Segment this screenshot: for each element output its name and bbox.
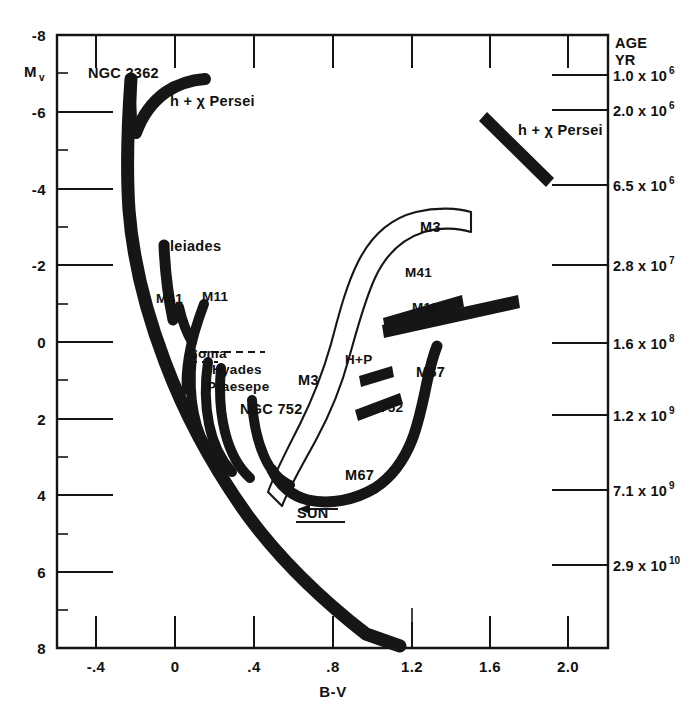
x-axis-tick-labels: -.4 0 .4 .8 1.2 1.6 2.0 xyxy=(87,658,579,675)
x-label-5: 1.6 xyxy=(479,658,501,675)
x-axis-ticks-bottom xyxy=(96,616,568,648)
annotation-m67-ms: M67 xyxy=(345,467,374,483)
annotation-pleiades: Pleiades xyxy=(160,238,221,254)
x-label-1: 0 xyxy=(171,658,180,675)
age-label-2-text: 6.5 x 10 xyxy=(613,178,667,194)
age-label-1-text: 2.0 x 10 xyxy=(613,103,667,119)
y-axis-ticks-right xyxy=(552,75,608,565)
annotation-m11-ms: M11 xyxy=(202,289,229,304)
x-label-4: 1.2 xyxy=(401,658,423,675)
annotation-hyades: Hyades xyxy=(212,362,262,377)
age-label-3-text: 2.8 x 10 xyxy=(613,258,667,274)
age-label-6: 7.1 x 10 9 xyxy=(613,480,675,499)
age-label-2-exponent: 6 xyxy=(669,175,675,186)
y-label--4: -4 xyxy=(32,181,46,198)
age-label-0-text: 1.0 x 10 xyxy=(613,68,667,84)
x-axis-title: B-V xyxy=(319,683,347,700)
y-axis-title-left: M v xyxy=(24,63,45,83)
track-ngc2362 xyxy=(130,79,132,128)
y-label--6: -6 xyxy=(32,104,46,121)
age-axis-header: AGE YR xyxy=(615,35,647,68)
annotation-m3-branch: M3 xyxy=(298,372,319,388)
color-magnitude-figure: -.4 0 .4 .8 1.2 1.6 2.0 B-V xyxy=(0,0,694,719)
annotation-hp-giant: H+P xyxy=(345,352,373,367)
age-label-4: 1.6 x 10 8 xyxy=(613,333,675,352)
bar-hp-giant xyxy=(359,366,394,387)
y-axis-title-main: M xyxy=(24,63,37,80)
annotation-752-giant: 752 xyxy=(380,400,403,415)
annotation-coma: Coma xyxy=(188,346,227,361)
y-label-6: 6 xyxy=(37,564,46,581)
x-label-3: .8 xyxy=(326,658,339,675)
y-label--8: -8 xyxy=(32,27,46,44)
annotation-m3-top: M3 xyxy=(420,219,441,235)
y-label--2: -2 xyxy=(32,257,46,274)
x-label-6: 2.0 xyxy=(557,658,579,675)
x-label-0: -.4 xyxy=(87,658,106,675)
annotation-ngc752-ms: NGC 752 xyxy=(240,401,303,417)
y-axis-title-subscript: v xyxy=(39,72,45,83)
annotation-m41-giant: M41 xyxy=(405,265,432,280)
age-label-7-text: 2.9 x 10 xyxy=(613,558,667,574)
age-label-3-exponent: 7 xyxy=(669,255,675,266)
annotation-sun: SUN xyxy=(297,505,329,521)
y-label-0: 0 xyxy=(37,334,46,351)
annotation-praesepe: Praesepe xyxy=(207,379,270,394)
y-axis-tick-labels-left: -8 -6 -4 -2 0 2 4 6 8 xyxy=(32,27,46,657)
y-label-2: 2 xyxy=(37,411,46,428)
age-label-0-exponent: 6 xyxy=(669,65,675,76)
track-pleiades xyxy=(164,245,173,320)
age-axis-header-line2: YR xyxy=(615,52,636,68)
x-axis-ticks-top xyxy=(96,35,568,68)
annotation-m11-giant: M11 xyxy=(412,300,439,315)
age-label-5-exponent: 9 xyxy=(669,405,675,416)
age-label-1-exponent: 6 xyxy=(669,100,675,111)
annotation-m41-ms: M41 xyxy=(156,291,183,306)
y-axis-ticks-left xyxy=(57,35,113,648)
age-label-7: 2.9 x 10 10 xyxy=(613,555,681,574)
annotation-hchi-persei-ms: h + χ Persei xyxy=(170,93,255,109)
age-label-3: 2.8 x 10 7 xyxy=(613,255,675,274)
age-label-7-exponent: 10 xyxy=(669,555,681,566)
age-label-5: 1.2 x 10 9 xyxy=(613,405,675,424)
age-label-4-exponent: 8 xyxy=(669,333,675,344)
age-label-1: 2.0 x 10 6 xyxy=(613,100,675,119)
age-label-0: 1.0 x 10 6 xyxy=(613,65,675,84)
y-label-4: 4 xyxy=(37,487,46,504)
annotation-ngc2362: NGC 2362 xyxy=(88,65,159,81)
age-axis-header-line1: AGE xyxy=(615,35,647,51)
cmd-plot-svg: -.4 0 .4 .8 1.2 1.6 2.0 B-V xyxy=(0,0,694,719)
age-label-6-text: 7.1 x 10 xyxy=(613,483,667,499)
annotation-hchi-persei-sg: h + χ Persei xyxy=(518,122,603,138)
age-label-4-text: 1.6 x 10 xyxy=(613,336,667,352)
y-label-8: 8 xyxy=(37,640,46,657)
annotation-m67-giant: M67 xyxy=(416,364,445,380)
age-axis-tick-labels: 1.0 x 10 6 2.0 x 10 6 6.5 x 10 6 2.8 x 1… xyxy=(613,65,681,574)
age-label-5-text: 1.2 x 10 xyxy=(613,408,667,424)
age-label-2: 6.5 x 10 6 xyxy=(613,175,675,194)
age-label-6-exponent: 9 xyxy=(669,480,675,491)
x-label-2: .4 xyxy=(247,658,261,675)
